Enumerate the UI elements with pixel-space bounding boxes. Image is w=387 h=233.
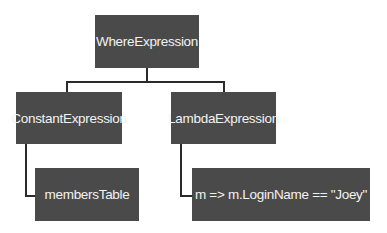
node-lambda-body: m => m.LoginName == "Joey" bbox=[192, 168, 370, 221]
connector-to-lambda bbox=[223, 81, 225, 92]
node-lambda-expression: LambdaExpression bbox=[171, 92, 276, 144]
connector-lambda-right bbox=[180, 195, 192, 197]
node-label: WhereExpression bbox=[96, 34, 198, 49]
node-label: ConstantExpression bbox=[11, 111, 126, 126]
node-label: membersTable bbox=[45, 187, 130, 202]
connector-horizontal bbox=[66, 81, 225, 83]
node-constant-expression: ConstantExpression bbox=[16, 92, 122, 144]
node-label: m => m.LoginName == "Joey" bbox=[195, 187, 367, 202]
connector-constant-right bbox=[25, 195, 35, 197]
connector-to-constant bbox=[66, 81, 68, 92]
connector-constant-down bbox=[25, 144, 27, 197]
node-where-expression: WhereExpression bbox=[95, 15, 199, 68]
node-members-table: membersTable bbox=[35, 168, 139, 221]
connector-lambda-down bbox=[180, 144, 182, 197]
node-label: LambdaExpression bbox=[168, 111, 279, 126]
